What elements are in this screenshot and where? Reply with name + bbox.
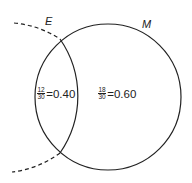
circle-e-dashed-bottom (12, 153, 60, 172)
fraction: 12 30 (37, 87, 45, 100)
region-e-and-m: 12 30 =0.40 (37, 87, 75, 100)
venn-diagram (0, 0, 192, 183)
label-m: M (142, 18, 151, 30)
region-value: =0.60 (107, 88, 136, 100)
denominator: 30 (99, 94, 106, 100)
denominator: 30 (38, 94, 45, 100)
region-m-not-e: 18 30 =0.60 (98, 87, 136, 100)
label-e: E (45, 15, 52, 27)
fraction: 18 30 (98, 87, 106, 100)
region-value: =0.40 (46, 88, 75, 100)
circle-e-dashed-top (14, 23, 60, 39)
